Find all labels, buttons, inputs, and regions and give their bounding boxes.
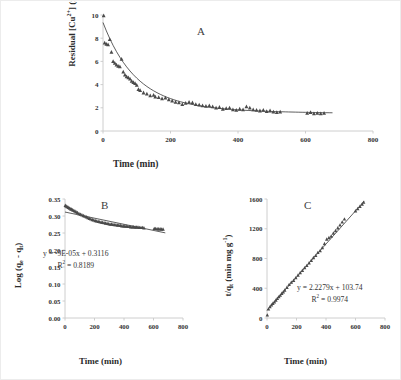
svg-text:600: 600: [148, 323, 159, 330]
panel-c-x-axis-title: Time (min): [284, 356, 327, 366]
svg-text:10: 10: [92, 12, 100, 20]
svg-text:400: 400: [119, 323, 130, 330]
svg-text:0.25: 0.25: [49, 230, 61, 237]
svg-text:0.30: 0.30: [49, 213, 61, 220]
panel-c-letter: C: [304, 199, 311, 211]
svg-text:0.05: 0.05: [49, 298, 61, 305]
svg-text:0: 0: [95, 128, 99, 136]
svg-text:800: 800: [252, 255, 263, 262]
panel-a-y-axis-title: Residual [Cu2+] (mg L-1): [62, 0, 76, 95]
svg-text:400: 400: [252, 285, 263, 292]
panel-a-x-axis-title: Time (min): [113, 159, 158, 169]
svg-text:0: 0: [265, 323, 269, 330]
svg-text:0: 0: [63, 323, 67, 330]
svg-text:2: 2: [95, 104, 99, 112]
svg-text:0: 0: [101, 136, 105, 144]
panel-c-plot: 0400800120016000200400600800: [239, 194, 391, 336]
svg-text:6: 6: [95, 58, 99, 66]
svg-text:800: 800: [368, 136, 379, 144]
panel-a-plot: 02468100200400600800: [81, 9, 381, 149]
svg-text:800: 800: [178, 323, 189, 330]
svg-text:8: 8: [95, 35, 99, 43]
svg-text:400: 400: [233, 136, 244, 144]
panel-a-y-axis-title-text: Residual [Cu2+] (mg L-1): [67, 0, 77, 67]
svg-text:400: 400: [321, 323, 332, 330]
panel-b-y-axis-title: Log (qe - qt): [12, 201, 25, 331]
panel-b-fit-annotation: y = -9E-05x + 0.3116 R2 = 0.8189: [43, 249, 108, 271]
svg-text:1600: 1600: [249, 196, 263, 203]
svg-text:600: 600: [350, 323, 361, 330]
panel-c-r-squared: R2 = 0.9974: [297, 293, 363, 305]
panel-b-r-squared: R2 = 0.8189: [43, 259, 108, 271]
svg-text:800: 800: [380, 323, 391, 330]
panel-b-equation: y = -9E-05x + 0.3116: [43, 249, 108, 259]
panel-c-y-axis-title: t/qt (min mg g-1): [219, 201, 232, 331]
panel-a-letter: A: [197, 25, 205, 37]
panel-b-y-axis-title-text: Log (qe - qt): [13, 243, 23, 289]
svg-text:200: 200: [291, 323, 302, 330]
panel-c: 0400800120016000200400600800: [239, 194, 391, 336]
panel-a: 02468100200400600800: [81, 9, 381, 149]
panel-c-fit-annotation: y = 2.2279x + 103.74 R2 = 0.9974: [297, 283, 363, 305]
panel-c-y-axis-title-text: t/qt (min mg g-1): [223, 235, 233, 297]
svg-text:4: 4: [95, 81, 99, 89]
svg-text:200: 200: [89, 323, 100, 330]
svg-text:0.00: 0.00: [49, 315, 61, 322]
figure-container: 02468100200400600800 Time (min) Residual…: [0, 0, 401, 380]
svg-text:1200: 1200: [249, 225, 263, 232]
panel-b-x-axis-title: Time (min): [79, 356, 122, 366]
panel-c-equation: y = 2.2279x + 103.74: [297, 283, 363, 293]
svg-text:0: 0: [259, 315, 263, 322]
svg-text:600: 600: [300, 136, 311, 144]
svg-text:0.35: 0.35: [49, 196, 61, 203]
svg-text:200: 200: [165, 136, 176, 144]
panel-b-letter: B: [101, 199, 108, 211]
svg-text:0.10: 0.10: [49, 281, 61, 288]
